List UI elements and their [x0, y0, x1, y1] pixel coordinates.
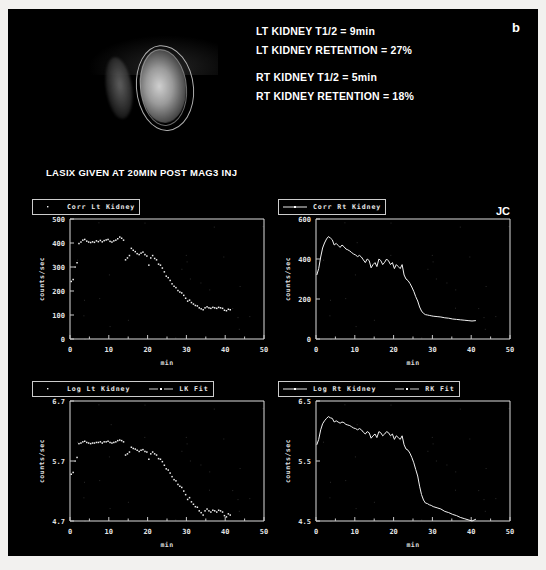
data-point — [74, 266, 76, 268]
data-point — [90, 242, 92, 244]
legend-entry: Log Lt Kidney — [36, 385, 130, 393]
data-point — [187, 499, 189, 501]
data-point — [191, 501, 193, 503]
data-point — [220, 307, 222, 309]
chart-log-rt-kidney: Log Rt KidneyRK Fit 010203040504.55.56.5… — [266, 377, 516, 556]
x-tick-label: 10 — [105, 528, 113, 536]
data-point — [107, 441, 109, 443]
y-tick-label: 400 — [298, 256, 311, 264]
legend-label: Corr Rt Kidney — [313, 203, 381, 211]
data-point — [146, 451, 148, 453]
data-point — [131, 447, 133, 449]
data-point — [177, 484, 179, 486]
plot-corr-lt-kidney: 010203040500100200300400500mincounts/sec — [20, 211, 270, 375]
data-point — [156, 454, 158, 456]
y-axis-title: counts/sec — [38, 257, 46, 301]
data-point — [216, 308, 218, 310]
data-point — [109, 442, 111, 444]
y-tick-label: 100 — [52, 312, 65, 320]
data-point — [150, 257, 152, 259]
lt-kidney-retention: LT KIDNEY RETENTION = 27% — [256, 41, 414, 60]
data-point — [119, 439, 121, 441]
chart-corr-rt-kidney: Corr Rt Kidney 010203040500200400600minc… — [266, 195, 516, 375]
data-point — [98, 241, 100, 243]
data-point — [140, 450, 142, 452]
data-point — [183, 295, 185, 297]
data-point — [175, 480, 177, 482]
data-point — [158, 458, 160, 460]
legend-marker-dots — [36, 385, 62, 393]
data-point — [86, 240, 88, 242]
data-point — [140, 252, 142, 254]
y-tick-label: 4.5 — [298, 518, 311, 526]
data-point — [230, 309, 232, 311]
chart-corr-lt-kidney: Corr Lt Kidney 0102030405001002003004005… — [20, 195, 270, 375]
data-point — [193, 303, 195, 305]
data-point — [71, 474, 73, 476]
data-point — [80, 241, 82, 243]
x-tick-label: 30 — [182, 346, 190, 354]
data-point — [185, 494, 187, 496]
data-point — [208, 510, 210, 512]
data-point — [226, 310, 228, 312]
legend-marker-line-dot — [394, 385, 420, 393]
data-point — [84, 441, 86, 443]
data-point — [72, 279, 74, 281]
data-point — [230, 514, 232, 516]
data-point — [117, 440, 119, 442]
legend-label: LK Fit — [179, 385, 208, 393]
data-point — [113, 240, 115, 242]
x-tick-label: 40 — [221, 346, 229, 354]
y-tick-label: 4.7 — [52, 518, 65, 526]
data-point — [103, 240, 105, 242]
data-point — [183, 490, 185, 492]
x-axis-title: min — [406, 541, 419, 549]
y-tick-label: 200 — [52, 288, 65, 296]
data-point — [113, 442, 115, 444]
data-point — [206, 306, 208, 308]
data-point — [76, 262, 78, 264]
x-tick-label: 30 — [428, 346, 436, 354]
legend-entry: LK Fit — [148, 385, 208, 393]
data-point — [105, 239, 107, 241]
renal-scintigraphy-image — [78, 35, 238, 145]
data-point — [202, 309, 204, 311]
data-point — [131, 248, 133, 250]
x-tick-label: 20 — [389, 346, 397, 354]
x-axis-title: min — [160, 359, 173, 367]
data-point — [214, 307, 216, 309]
data-point — [123, 239, 125, 241]
data-point — [121, 238, 123, 240]
data-point — [214, 510, 216, 512]
data-point — [164, 271, 166, 273]
y-tick-label: 0 — [307, 336, 311, 344]
data-trace — [317, 237, 476, 321]
data-point — [148, 459, 150, 461]
data-point — [210, 308, 212, 310]
data-point — [158, 263, 160, 265]
x-tick-label: 20 — [143, 346, 151, 354]
data-point — [171, 476, 173, 478]
data-point — [197, 507, 199, 509]
data-point — [222, 308, 224, 310]
data-point — [166, 468, 168, 470]
x-tick-label: 0 — [314, 346, 318, 354]
y-tick-label: 5.5 — [298, 458, 311, 466]
legend-label: Log Lt Kidney — [67, 385, 130, 393]
data-point — [96, 442, 98, 444]
data-point — [189, 497, 191, 499]
data-point — [76, 457, 78, 459]
data-point — [135, 448, 137, 450]
data-point — [187, 300, 189, 302]
y-tick-label: 500 — [52, 216, 65, 224]
data-point — [224, 310, 226, 312]
data-point — [138, 451, 140, 453]
y-tick-label: 5.7 — [52, 458, 65, 466]
data-point — [92, 442, 94, 444]
data-point — [191, 302, 193, 304]
data-point — [212, 510, 214, 512]
plot-corr-rt-kidney: 010203040500200400600mincounts/sec — [266, 211, 516, 375]
data-point — [82, 239, 84, 241]
data-point — [84, 239, 86, 241]
x-tick-label: 0 — [68, 346, 72, 354]
